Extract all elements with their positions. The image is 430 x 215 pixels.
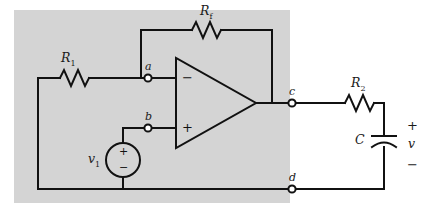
- node-b-label: b: [145, 111, 152, 122]
- voltage-source-v1-label: v1: [88, 153, 100, 169]
- circuit-schematic-canvas: [0, 0, 430, 215]
- voltage-source-minus-sign: −: [119, 162, 128, 173]
- node-a-terminal: [144, 74, 151, 81]
- op-amp-noninverting-input-sign: +: [182, 121, 193, 134]
- resistor-r1-label: R1: [61, 52, 76, 68]
- node-a-label: a: [145, 61, 152, 72]
- node-d-terminal: [288, 185, 295, 192]
- output-minus-sign: −: [407, 158, 418, 171]
- node-b-terminal: [144, 124, 151, 131]
- node-d-label: d: [289, 172, 296, 183]
- resistor-r2-zigzag: [345, 95, 374, 111]
- resistor-r2-label: R2: [351, 77, 366, 93]
- resistor-rf-label: Rf: [200, 5, 212, 21]
- circuit-diagram-figure: R1 Rf R2 C v1 + − − + a b c d + v −: [0, 0, 430, 215]
- output-voltage-label: v: [408, 138, 415, 151]
- op-amp-inverting-input-sign: −: [182, 71, 193, 84]
- voltage-source-plus-sign: +: [119, 146, 128, 157]
- node-c-terminal: [288, 99, 295, 106]
- node-c-label: c: [289, 86, 295, 97]
- capacitor-c-label: C: [355, 134, 365, 147]
- output-plus-sign: +: [407, 119, 418, 132]
